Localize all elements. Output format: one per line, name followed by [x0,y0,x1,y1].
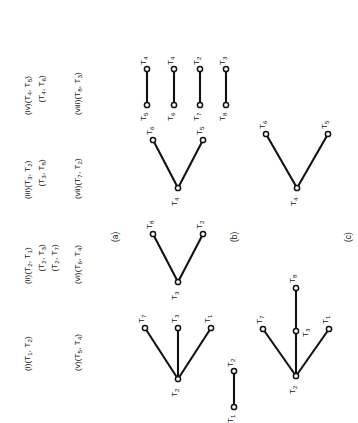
node-label-endpoint: T5 [140,113,151,121]
node-sub: 7 [140,315,147,318]
graph-c-tree-t2: T2 T7 T1 T3 T8 [250,272,342,392]
pair-text: ) [23,76,32,79]
pair-sub: 3 [40,175,47,179]
node-text: T [139,60,148,65]
pair-text: ) [37,244,46,247]
pair-text: ) [23,247,32,250]
pair-text: , T [73,164,82,174]
pair-sub: 5 [26,79,33,83]
node-label-leaf: T8 [146,221,157,229]
node-label-mid: T3 [302,329,313,337]
node-text: T [289,201,298,206]
node-label-leaf: T6 [259,121,270,129]
pair-sub: 1 [26,352,33,356]
pair-sub: 2 [26,263,33,267]
pair-sub: 4 [76,248,83,252]
node-text: T [170,201,179,206]
pair-line: (vi)(T6, T4) [72,245,86,284]
pair-text: (T [50,264,59,272]
node-sub: 5 [323,121,330,124]
node-sub: 8 [291,275,298,278]
node-text: T [301,332,310,337]
caption-c: (c) [343,232,353,242]
pair-text: (viii)(T [73,92,82,115]
node-text: T [218,60,227,65]
pair-sub: 2 [26,339,33,343]
graph-b-edge-svg [168,56,180,118]
panel-b: T2 T7 T3 T1 T3 [128,0,234,414]
graph-b-edge-svg [220,56,232,118]
pair-line: (T4, T6) [36,75,50,115]
node-sub: 7 [258,316,265,319]
pair-text: , T [73,340,82,350]
pair-text: ) [37,75,46,78]
node-label-endpoint: T8 [219,113,230,121]
graph-c-star-t4: T4 T6 T5 [258,110,336,206]
pair-text: , T [23,82,32,92]
graph-b-star-t3: T3 T8 T2 [147,218,209,296]
node-text: T [218,116,227,121]
pair-text: ) [73,245,82,248]
node-text: T [321,319,330,324]
node-text: T [258,124,267,129]
pair-sub: 4 [40,91,47,95]
pair-text: ) [73,334,82,337]
node-text: T [166,116,175,121]
node-sub: 6 [169,113,176,116]
pair-sub: 2 [40,260,47,264]
pair-text: ) [73,158,82,161]
pair-text: , T [37,166,46,176]
node-text: T [320,124,329,129]
node-label-leaf: T2 [196,221,207,229]
node-label-leaf: T3 [171,315,182,323]
pair-text: (T [37,179,46,187]
node-label-branch: T1 [322,316,333,324]
pair-sub: 4 [76,337,83,341]
node-sub: 6 [148,127,155,130]
pair-text: , T [73,251,82,261]
pair-text: (iii)(T [23,180,32,199]
node-label-endpoint: T4 [140,57,151,65]
pair-line: (viii)(T8, T3) [72,72,86,115]
node-text: T [145,130,154,135]
pair-entry-i: (i)(T1, T2) [22,336,36,371]
node-sub: 3 [173,315,180,318]
pair-line: (vii)(T7, T2) [72,158,86,199]
node-label-leaf: T5 [321,121,332,129]
node-sub: 6 [261,121,268,124]
panel-a: (i)(T1, T2) (ii)(T2, T1) (T2, T3) (T2, T… [0,0,120,414]
node-text: T [145,224,154,229]
node-sub: 1 [229,415,236,418]
pair-text: , T [23,167,32,177]
node-text: T [139,116,148,121]
graph-b-edge-t6-t4: T6 T4 [168,56,180,118]
node-text: T [170,295,179,300]
node-sub: 2 [291,386,298,389]
pair-text: ) [23,336,32,339]
node-text: T [226,362,235,367]
node-sub: 4 [169,57,176,60]
pair-text: , T [37,251,46,261]
pair-sub: 1 [26,250,33,254]
pair-line: (T2, T3) [36,244,50,284]
node-sub: 8 [148,221,155,224]
pair-sub: 5 [76,350,83,354]
pair-sub: 2 [53,260,60,264]
pair-line: (iii)(T3, T2) [22,159,36,199]
pair-entry-vi: (vi)(T6, T4) [72,245,86,284]
pair-sub: 3 [76,75,83,79]
pair-text: ) [23,160,32,163]
node-sub: 4 [173,198,180,201]
node-sub: 3 [173,292,180,295]
node-sub: 3 [304,329,311,332]
pair-line: (T3, T8) [36,159,50,199]
node-label-endpoint: T8 [289,275,300,283]
node-sub: 1 [324,316,331,319]
pair-text: (i)(T [23,356,32,371]
pair-text: (vi)(T [73,265,82,284]
node-label-leaf: T1 [204,315,215,323]
node-text: T [166,60,175,65]
node-label-center: T2 [171,389,182,397]
graph-b-edge-t7-t2: T7 T2 [194,56,206,118]
graph-b-edge-svg [141,56,153,118]
